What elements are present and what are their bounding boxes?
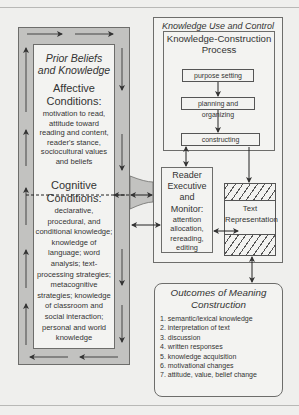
- funnel-connector: [130, 176, 153, 209]
- connector-layer: [0, 0, 299, 415]
